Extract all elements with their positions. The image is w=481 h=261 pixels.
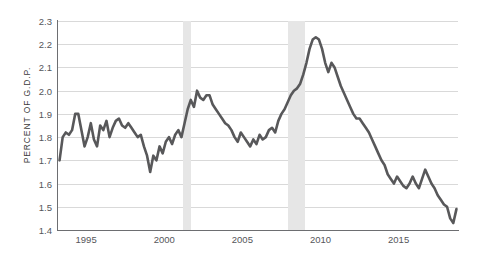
y-tick-label: 2.3	[26, 16, 52, 27]
y-axis-line	[57, 20, 58, 231]
y-tick-label: 1.9	[26, 108, 52, 119]
y-tick-label: 1.7	[26, 155, 52, 166]
chart-container: PERCENT OF G.D.P. 2.32.22.12.01.91.81.71…	[0, 0, 481, 261]
plot-area	[58, 21, 458, 230]
y-tick-label: 1.6	[26, 178, 52, 189]
y-tick-label: 1.5	[26, 201, 52, 212]
y-axis-tick-labels: 2.32.22.12.01.91.81.71.61.51.4	[22, 0, 52, 261]
y-tick-label: 2.0	[26, 85, 52, 96]
series-line-path	[60, 37, 457, 223]
y-tick-label: 1.8	[26, 132, 52, 143]
x-tick-label: 2010	[299, 234, 343, 245]
y-tick-label: 2.1	[26, 62, 52, 73]
x-tick-label: 2000	[142, 234, 186, 245]
x-tick-label: 1995	[64, 234, 108, 245]
y-tick-label: 1.4	[26, 225, 52, 236]
series-line-chart	[58, 21, 458, 230]
y-tick-label: 2.2	[26, 39, 52, 50]
x-tick-label: 2005	[220, 234, 264, 245]
x-tick-label: 2015	[377, 234, 421, 245]
x-axis-line	[57, 230, 459, 231]
